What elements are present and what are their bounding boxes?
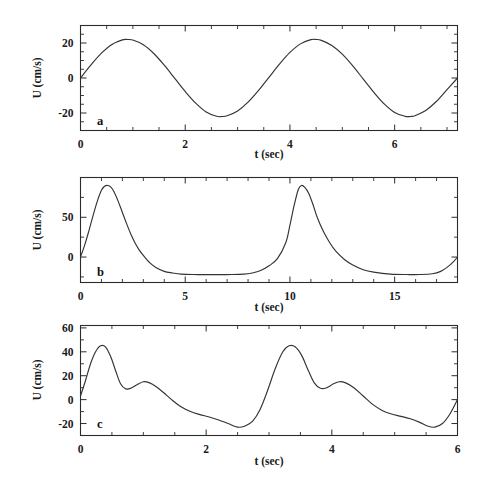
tick-label: 60: [62, 322, 74, 334]
tick-label: -20: [58, 107, 74, 119]
panel-c-y-axis-title: U (cm/s): [31, 359, 44, 400]
tick-label: 10: [284, 290, 296, 302]
panel-b-ticks: [81, 178, 458, 283]
panel-c-axes: [81, 326, 458, 436]
panel-b-plot: 051015050 b t (sec) U (cm/s): [0, 163, 486, 321]
panel-c-x-axis-title: t (sec): [254, 455, 283, 468]
panel-b: 051015050 b t (sec) U (cm/s): [0, 163, 486, 321]
panel-a: 0246-20020 a t (sec) U (cm/s): [0, 0, 486, 165]
tick-label: 0: [78, 443, 84, 455]
tick-label: 4: [329, 443, 335, 455]
tick-label: 2: [203, 443, 209, 455]
tick-label: 0: [78, 138, 84, 150]
tick-label: 40: [62, 346, 74, 358]
tick-label: 20: [62, 370, 74, 382]
panel-a-tick-labels: 0246-20020: [58, 37, 398, 150]
panel-a-curve: [81, 39, 458, 116]
tick-label: 5: [182, 290, 188, 302]
tick-label: 50: [62, 211, 74, 223]
panel-c-tick-labels: 0246-200204060: [58, 322, 460, 455]
panel-c-letter: c: [97, 417, 103, 431]
panel-a-plot: 0246-20020 a t (sec) U (cm/s): [0, 0, 486, 165]
panel-b-x-axis-title: t (sec): [254, 301, 283, 314]
tick-label: 4: [287, 138, 293, 150]
panel-b-curve: [81, 185, 458, 274]
figure-container: 0246-20020 a t (sec) U (cm/s) 051015050 …: [0, 0, 486, 485]
panel-b-tick-labels: 051015050: [62, 211, 401, 301]
tick-label: 6: [455, 443, 461, 455]
panel-a-x-axis-title: t (sec): [254, 148, 283, 161]
panel-b-y-axis-title: U (cm/s): [31, 209, 44, 250]
panel-c-curve: [81, 345, 458, 427]
panel-a-y-axis-title: U (cm/s): [31, 57, 44, 98]
panel-c: 0246-200204060 c t (sec) U (cm/s): [0, 315, 486, 485]
panel-a-letter: a: [97, 114, 104, 128]
panel-c-ticks: [81, 326, 458, 436]
tick-label: 20: [62, 37, 74, 49]
panel-b-letter: b: [97, 265, 104, 279]
panel-c-plot: 0246-200204060 c t (sec) U (cm/s): [0, 315, 486, 485]
tick-label: 0: [68, 251, 74, 263]
tick-label: 0: [68, 72, 74, 84]
tick-label: 15: [389, 290, 401, 302]
tick-label: 0: [78, 290, 84, 302]
tick-label: 2: [182, 138, 188, 150]
tick-label: -20: [58, 418, 74, 430]
tick-label: 0: [68, 394, 74, 406]
tick-label: 6: [392, 138, 398, 150]
panel-b-axes: [81, 178, 458, 283]
